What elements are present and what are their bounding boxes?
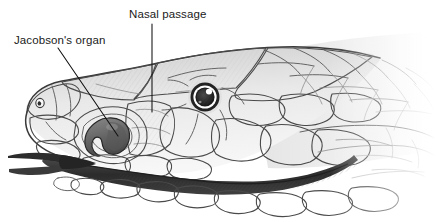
eye	[188, 80, 222, 114]
label-nasal-passage: Nasal passage	[129, 8, 206, 20]
snake-head-illustration: Jacobson's organ Nasal passage	[0, 0, 436, 222]
nostril-icon	[36, 98, 44, 107]
snake-head-anatomy-figure: Jacobson's organ Nasal passage	[0, 0, 436, 222]
edge-fade	[330, 0, 436, 222]
label-jacobsons-organ: Jacobson's organ	[14, 34, 105, 46]
eye-highlight	[206, 89, 212, 95]
